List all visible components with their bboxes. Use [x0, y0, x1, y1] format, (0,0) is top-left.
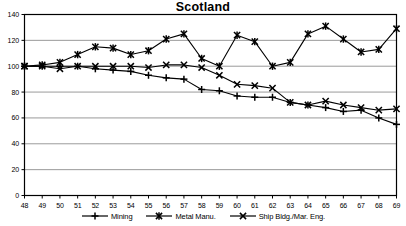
data-series-layer — [21, 22, 400, 127]
y-axis-tick-label: 40 — [0, 140, 19, 147]
x-axis-tick-label: 48 — [16, 202, 34, 209]
y-axis-tick-label: 0 — [0, 192, 19, 199]
x-axis-tick-label: 69 — [388, 202, 406, 209]
legend-marker-plus-icon — [81, 211, 109, 221]
plot-area — [0, 0, 406, 226]
x-axis-tick-label: 64 — [299, 202, 317, 209]
legend-marker-cross-icon — [229, 211, 257, 221]
legend-item-label: Ship Bldg./Mar. Eng. — [259, 212, 325, 221]
legend-item: Mining — [81, 211, 133, 221]
x-axis-tick-label: 50 — [51, 202, 69, 209]
x-axis-tick-label: 66 — [334, 202, 352, 209]
x-axis-tick-label: 57 — [175, 202, 193, 209]
x-axis-tick-label: 53 — [104, 202, 122, 209]
x-axis-tick-label: 52 — [86, 202, 104, 209]
legend-item: Ship Bldg./Mar. Eng. — [229, 211, 325, 221]
y-axis-tick-label: 80 — [0, 89, 19, 96]
y-axis-tick-label: 140 — [0, 11, 19, 18]
x-axis-tick-label: 60 — [228, 202, 246, 209]
legend-marker-asterisk-icon — [145, 211, 173, 221]
chart-container: Scotland 020406080100120140 484950515253… — [0, 0, 406, 226]
x-axis-tick-label: 67 — [352, 202, 370, 209]
x-axis-tick-label: 65 — [317, 202, 335, 209]
y-axis-tick-label: 60 — [0, 114, 19, 121]
y-axis-tick-label: 100 — [0, 63, 19, 70]
x-axis-tick-label: 55 — [140, 202, 158, 209]
y-axis-tick-label: 120 — [0, 37, 19, 44]
legend-item: Metal Manu. — [145, 211, 215, 221]
x-axis-tick-label: 54 — [122, 202, 140, 209]
x-axis-tick-label: 58 — [193, 202, 211, 209]
x-axis-tick-label: 61 — [246, 202, 264, 209]
x-axis-tick-label: 49 — [33, 202, 51, 209]
legend-item-label: Metal Manu. — [175, 212, 215, 221]
x-axis-tick-label: 59 — [210, 202, 228, 209]
x-axis-tick-label: 51 — [69, 202, 87, 209]
x-axis-tick-label: 56 — [157, 202, 175, 209]
chart-legend: MiningMetal Manu.Ship Bldg./Mar. Eng. — [0, 211, 406, 221]
x-axis-tick-label: 63 — [281, 202, 299, 209]
x-axis-tick-label: 62 — [264, 202, 282, 209]
legend-item-label: Mining — [111, 212, 133, 221]
x-axis-tick-label: 68 — [370, 202, 388, 209]
y-axis-tick-label: 20 — [0, 166, 19, 173]
